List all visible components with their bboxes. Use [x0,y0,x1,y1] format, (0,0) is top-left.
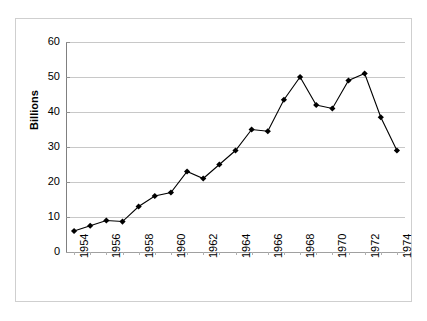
data-point-1954 [71,228,77,234]
data-point-1966 [265,128,271,134]
data-point-1972 [362,70,368,76]
y-tick-label-40: 40 [48,106,60,117]
y-tick-label-20: 20 [48,176,60,187]
data-point-1969 [313,102,319,108]
y-axis-title: Billions [28,70,40,150]
data-point-1974 [394,147,400,153]
data-point-1959 [152,193,158,199]
y-tick-label-60: 60 [48,36,60,47]
data-point-1973 [378,114,384,120]
data-point-1970 [329,105,335,111]
data-series-plot [66,42,405,253]
y-tick-label-0: 0 [54,246,60,257]
y-tick-label-50: 50 [48,71,60,82]
chart-container: 0102030405060 Billions 19541956195819601… [0,0,427,321]
series-markers [71,70,400,234]
data-point-1971 [345,77,351,83]
data-point-1956 [103,217,109,223]
y-tick-label-30: 30 [48,141,60,152]
data-point-1955 [87,223,93,229]
y-tick-label-10: 10 [48,211,60,222]
